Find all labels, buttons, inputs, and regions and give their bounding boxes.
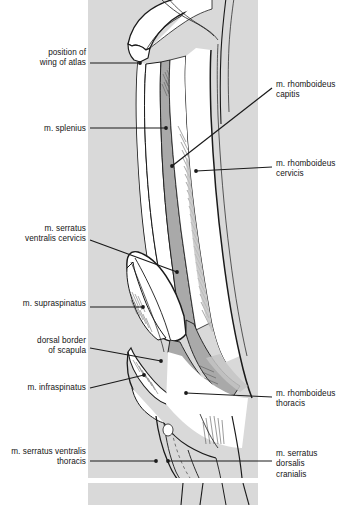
label-m-infraspinatus: m. infraspinatus [6,383,86,393]
label-dorsal-border-of-scapula: dorsal border of scapula [14,336,86,357]
label-m-serratus-dorsalis-cranialis: m. serratus dorsalis cranialis [276,449,345,480]
olecranon-marker [163,424,173,436]
background-panel-lower [88,483,258,505]
leader-dot-m-supraspinatus [141,305,145,309]
label-m-supraspinatus: m. supraspinatus [6,299,86,309]
label-position-of-wing-of-atlas: position of wing of atlas [14,48,86,69]
label-m-serratus-ventralis-thoracis: m. serratus ventralis thoracis [0,447,86,468]
leader-dot-position-of-wing-of-atlas [138,61,142,65]
leader-dot-m-splenius [164,126,168,130]
leader-dot-m-serratus-ventralis-cervicis [175,270,179,274]
leader-dot-dorsal-border-of-scapula [159,359,163,363]
anatomical-figure: position of wing of atlasm. spleniusm. s… [0,0,345,505]
leader-dot-m-rhomboideus-capitis [170,164,174,168]
leader-dot-m-serratus-ventralis-thoracis [154,459,158,463]
label-m-rhomboideus-cervicis: m. rhomboideus cervicis [276,159,345,180]
label-m-splenius: m. splenius [14,124,86,134]
leader-dot-m-infraspinatus [142,373,146,377]
label-m-rhomboideus-thoracis: m. rhomboideus thoracis [276,389,345,410]
leader-dot-m-rhomboideus-thoracis [184,391,188,395]
label-m-rhomboideus-capitis: m. rhomboideus capitis [276,80,345,101]
leader-dot-m-rhomboideus-cervicis [194,169,198,173]
label-m-serratus-ventralis-cervicis: m. serratus ventralis cervicis [6,224,86,245]
leader-dot-m-serratus-dorsalis-cranialis [166,459,170,463]
anatomy-illustration [0,0,345,505]
